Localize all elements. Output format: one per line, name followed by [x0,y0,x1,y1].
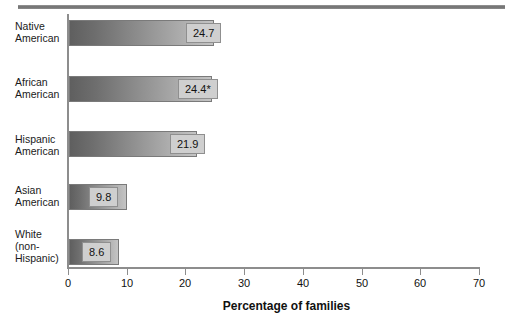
x-tick-60 [420,269,421,275]
category-label-line: Hispanic) [15,252,67,264]
x-tick-label-70: 70 [464,277,494,290]
bar-value-african-american: 24.4* [178,79,218,99]
category-label-line: American [15,32,67,44]
category-label-line: Native [15,20,67,32]
category-label-line: American [15,196,67,208]
category-label-asian-american: Asian American [15,184,67,208]
category-label-line: (non- [15,240,67,252]
category-label-native-american: Native American [15,20,67,44]
bar-value-white-non-hispanic: 8.6 [82,242,111,262]
category-label-line: Hispanic [15,133,67,145]
category-label-african-american: African American [15,76,67,100]
x-tick-30 [244,269,245,275]
category-label-line: White [15,228,67,240]
x-tick-10 [127,269,128,275]
x-tick-50 [362,269,363,275]
x-axis-title: Percentage of families [0,299,515,313]
x-tick-label-50: 50 [347,277,377,290]
x-tick-70 [479,269,480,275]
value-axis-line [67,267,480,269]
category-label-line: Asian [15,184,67,196]
bar-value-native-american: 24.7 [186,23,221,43]
x-tick-label-60: 60 [405,277,435,290]
bar-value-asian-american: 9.8 [89,187,118,207]
x-tick-0 [68,269,69,275]
category-label-hispanic-american: Hispanic American [15,133,67,157]
x-tick-label-0: 0 [53,277,83,290]
bar-value-hispanic-american: 21.9 [170,134,205,154]
x-tick-20 [185,269,186,275]
x-tick-40 [303,269,304,275]
category-label-white-non-hispanic: White (non- Hispanic) [15,228,67,264]
category-label-line: African [15,76,67,88]
x-tick-label-10: 10 [112,277,142,290]
category-label-line: American [15,88,67,100]
x-tick-label-30: 30 [229,277,259,290]
x-tick-label-20: 20 [170,277,200,290]
category-label-line: American [15,145,67,157]
plot-area: Native American African American Hispani… [0,0,515,327]
x-tick-label-40: 40 [288,277,318,290]
chart-container: Native American African American Hispani… [0,0,515,327]
